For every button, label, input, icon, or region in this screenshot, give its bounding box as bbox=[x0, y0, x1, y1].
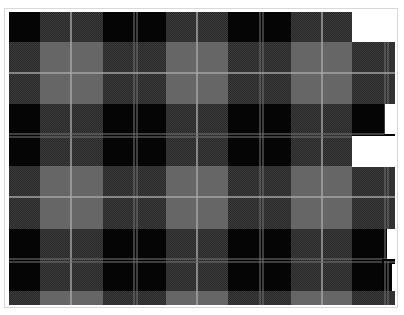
plaid-cell bbox=[40, 42, 72, 73]
plaid-cell bbox=[291, 73, 322, 104]
plaid-cell bbox=[228, 166, 260, 197]
plaid-cell bbox=[197, 197, 228, 229]
plaid-cell bbox=[9, 73, 40, 104]
plaid-cell bbox=[9, 229, 40, 260]
edge-mark bbox=[384, 134, 395, 136]
plaid-cell bbox=[197, 260, 228, 291]
plaid-cell bbox=[291, 104, 322, 135]
plaid-cell bbox=[135, 166, 166, 197]
plaid-cell bbox=[40, 291, 72, 305]
plaid-cell bbox=[9, 135, 40, 166]
plaid-cell bbox=[260, 135, 291, 166]
plaid-cell bbox=[291, 42, 322, 73]
plaid-cell bbox=[228, 42, 260, 73]
plaid-cell bbox=[166, 260, 197, 291]
plaid-cell bbox=[72, 260, 103, 291]
plaid-cell bbox=[260, 229, 291, 260]
white-patch bbox=[387, 229, 395, 260]
plaid-cell bbox=[228, 229, 260, 260]
plaid-cell bbox=[291, 12, 322, 42]
plaid-cell bbox=[103, 104, 135, 135]
plaid-cell bbox=[135, 260, 166, 291]
plaid-cell bbox=[197, 104, 228, 135]
plaid-cell bbox=[72, 197, 103, 229]
plaid-cell bbox=[9, 12, 40, 42]
plaid-cell bbox=[228, 291, 260, 305]
plaid-cell bbox=[72, 73, 103, 104]
plaid-cell bbox=[9, 260, 40, 291]
plaid-cell bbox=[322, 166, 352, 197]
plaid-cell bbox=[72, 229, 103, 260]
plaid-cell bbox=[228, 260, 260, 291]
plaid-cell bbox=[197, 291, 228, 305]
plaid-cell bbox=[291, 229, 322, 260]
plaid-cell bbox=[260, 42, 291, 73]
plaid-cell bbox=[291, 197, 322, 229]
plaid-cell bbox=[260, 12, 291, 42]
white-patch bbox=[385, 104, 395, 134]
plaid-cell bbox=[9, 104, 40, 135]
plaid-cell bbox=[72, 291, 103, 305]
plaid-cell bbox=[197, 12, 228, 42]
plaid-cell bbox=[135, 104, 166, 135]
white-patch bbox=[392, 264, 395, 291]
plaid-cell bbox=[72, 104, 103, 135]
plaid-cell bbox=[72, 135, 103, 166]
plaid-cell bbox=[322, 104, 352, 135]
plaid-cell bbox=[103, 166, 135, 197]
plaid-cell bbox=[135, 291, 166, 305]
plaid-cell bbox=[322, 197, 352, 229]
plaid-cell bbox=[322, 73, 352, 104]
plaid-cell bbox=[291, 260, 322, 291]
plaid-cell bbox=[291, 135, 322, 166]
plaid-cell bbox=[103, 42, 135, 73]
plaid-horizontal-stripe bbox=[9, 196, 395, 198]
plaid-cell bbox=[166, 229, 197, 260]
plaid-cell bbox=[103, 12, 135, 42]
plaid-cell bbox=[103, 260, 135, 291]
plaid-cell bbox=[40, 104, 72, 135]
plaid-cell bbox=[197, 42, 228, 73]
plaid-horizontal-stripe bbox=[9, 258, 395, 260]
plaid-cell bbox=[135, 135, 166, 166]
plaid-cell bbox=[166, 135, 197, 166]
plaid-cell bbox=[135, 42, 166, 73]
plaid-cell bbox=[291, 291, 322, 305]
plaid-cell bbox=[228, 73, 260, 104]
white-patch bbox=[352, 136, 395, 167]
plaid-cell bbox=[228, 12, 260, 42]
plaid-cell bbox=[9, 166, 40, 197]
plaid-cell bbox=[260, 104, 291, 135]
plaid-cell bbox=[40, 73, 72, 104]
edge-mark bbox=[382, 261, 384, 291]
plaid-horizontal-stripe bbox=[9, 261, 395, 263]
plaid-cell bbox=[322, 291, 352, 305]
plaid-cell bbox=[197, 135, 228, 166]
plaid-cell bbox=[166, 197, 197, 229]
plaid-horizontal-stripe bbox=[9, 72, 395, 74]
plaid-cell bbox=[72, 12, 103, 42]
plaid-cell bbox=[103, 229, 135, 260]
plaid-cell bbox=[40, 166, 72, 197]
plaid-cell bbox=[260, 166, 291, 197]
plaid-cell bbox=[103, 73, 135, 104]
plaid-cell bbox=[103, 135, 135, 166]
plaid-cell bbox=[40, 135, 72, 166]
plaid-cell bbox=[322, 135, 352, 166]
plaid-cell bbox=[228, 197, 260, 229]
plaid-cell bbox=[260, 197, 291, 229]
plaid-cell bbox=[103, 291, 135, 305]
plaid-cell bbox=[166, 104, 197, 135]
tartan-plaid-pattern bbox=[9, 12, 395, 305]
plaid-cell bbox=[40, 229, 72, 260]
plaid-cell bbox=[166, 166, 197, 197]
plaid-cell bbox=[322, 42, 352, 73]
plaid-cell bbox=[322, 12, 352, 42]
plaid-cell bbox=[166, 291, 197, 305]
plaid-cell bbox=[103, 197, 135, 229]
plaid-cell bbox=[135, 73, 166, 104]
plaid-cell bbox=[40, 260, 72, 291]
plaid-cell bbox=[72, 42, 103, 73]
plaid-cell bbox=[197, 166, 228, 197]
white-patch bbox=[352, 12, 395, 42]
